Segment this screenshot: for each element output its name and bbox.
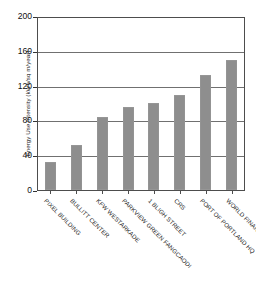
y-axis-tick-mark — [33, 191, 37, 192]
y-axis-tick-mark — [33, 52, 37, 53]
y-axis-tick-label: 160 — [8, 47, 32, 56]
y-axis-tick-mark — [33, 121, 37, 122]
x-axis-category-labels: PIXEL BUILDINGBULLITT CENTERKFW WESTARKA… — [37, 194, 252, 304]
y-axis-tick-label: 0 — [8, 186, 32, 195]
bar — [71, 145, 82, 190]
bar-series — [38, 18, 244, 190]
bar-slot — [141, 18, 167, 190]
y-axis-tick-label: 40 — [8, 151, 32, 160]
x-axis-category-label: PORT OF PORTLAND HQ — [199, 197, 256, 255]
y-axis-tick-labels: 04080120160200 — [0, 0, 32, 306]
bar-slot — [167, 18, 193, 190]
x-axis-category-label: CRS — [173, 197, 187, 211]
bar-slot — [64, 18, 90, 190]
y-axis-tick-mark — [33, 87, 37, 88]
y-axis-tick-mark — [33, 156, 37, 157]
y-axis-tick-label: 80 — [8, 116, 32, 125]
y-axis-tick-label: 200 — [8, 12, 32, 21]
y-axis-tick-label: 120 — [8, 82, 32, 91]
bar-chart: Energy Use Intensity (kWh/sq m/year) 040… — [0, 0, 256, 306]
bar-slot — [115, 18, 141, 190]
bar — [174, 95, 185, 190]
bar — [200, 75, 211, 190]
y-axis-tick-mark — [33, 17, 37, 18]
bar-slot — [193, 18, 219, 190]
bar-slot — [90, 18, 116, 190]
plot-area — [37, 17, 245, 191]
bar — [123, 107, 134, 190]
bar — [97, 117, 108, 190]
bar — [148, 103, 159, 190]
bar — [226, 60, 237, 190]
bar-slot — [38, 18, 64, 190]
bar-slot — [218, 18, 244, 190]
x-axis-category-label: KFW WESTARKADE — [95, 197, 142, 244]
bar — [45, 162, 56, 190]
